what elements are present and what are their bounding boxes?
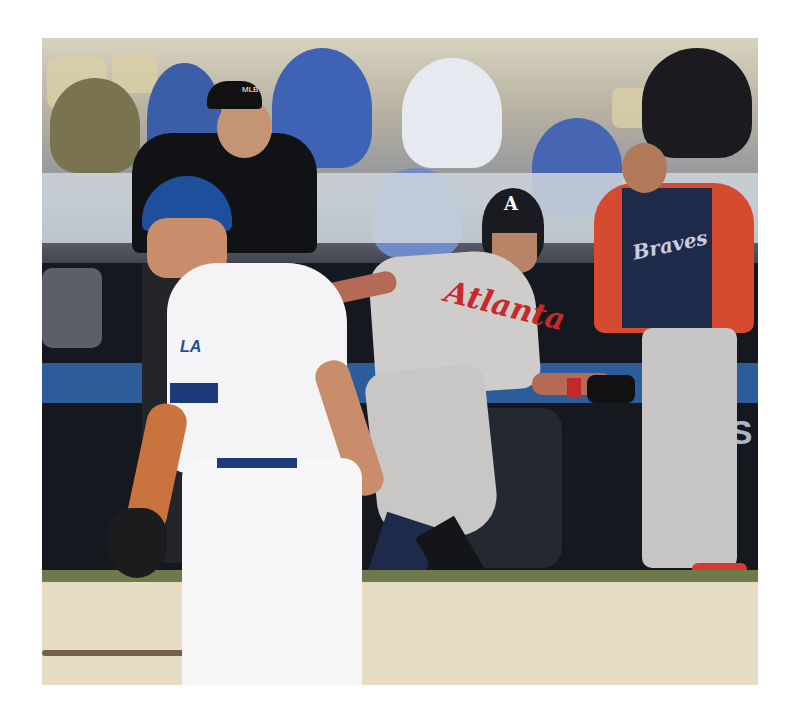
baseball-photo: LC TS Braves MLB A Atlanta LA bbox=[42, 38, 758, 685]
fan bbox=[402, 58, 502, 168]
dodgers-sleeve-logo: LA bbox=[180, 338, 201, 356]
dodgers-home-pants bbox=[182, 458, 362, 685]
dodgers-belt bbox=[217, 458, 297, 468]
braves-dugout-player-pants bbox=[642, 328, 737, 568]
dodgers-sleeve-stripe bbox=[170, 383, 218, 403]
infield-dirt bbox=[42, 582, 758, 685]
fan bbox=[50, 78, 140, 173]
umpire-cap-logo: MLB bbox=[242, 85, 258, 94]
wristband bbox=[567, 378, 581, 398]
fan bbox=[642, 48, 752, 158]
braves-road-pants bbox=[363, 362, 500, 544]
braves-dugout-player-head bbox=[622, 143, 667, 193]
braves-helmet-logo: A bbox=[504, 193, 518, 214]
batting-glove bbox=[587, 375, 635, 403]
first-base-glove bbox=[107, 508, 167, 578]
player-shadow bbox=[42, 650, 192, 656]
camera-operator bbox=[42, 268, 102, 348]
